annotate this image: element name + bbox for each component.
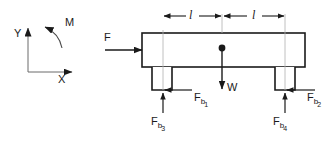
dimension-label-left: l — [189, 9, 192, 21]
reaction-fb4-base: F — [273, 115, 280, 127]
reaction-fb1-index: 1 — [204, 101, 208, 108]
reaction-fb2-base: F — [307, 91, 314, 103]
reaction-label-fb4: Fb4 — [273, 116, 288, 127]
dimension-label-right: l — [252, 9, 255, 21]
coordinate-axes — [28, 27, 72, 72]
reaction-label-fb2: Fb2 — [307, 92, 322, 103]
reaction-forces — [163, 90, 315, 113]
reaction-fb3-index: 3 — [161, 125, 165, 132]
beam-body — [142, 33, 305, 90]
x-axis-label: X — [58, 74, 65, 85]
reaction-label-fb1: Fb1 — [194, 92, 209, 103]
reaction-fb1-base: F — [194, 91, 201, 103]
weight-label: W — [227, 82, 237, 93]
reaction-fb2-index: 2 — [317, 101, 321, 108]
applied-force-label: F — [104, 32, 111, 43]
left-support-leg — [152, 67, 172, 90]
y-axis-label: Y — [14, 28, 21, 39]
moment-label: M — [65, 17, 74, 28]
reaction-fb4-index: 4 — [283, 125, 287, 132]
free-body-diagram: Y X M F W l l Fb1 Fb2 Fb3 Fb4 — [0, 0, 335, 146]
reaction-label-fb3: Fb3 — [151, 116, 166, 127]
moment-curved-arrow — [45, 27, 62, 48]
reaction-fb3-base: F — [151, 115, 158, 127]
